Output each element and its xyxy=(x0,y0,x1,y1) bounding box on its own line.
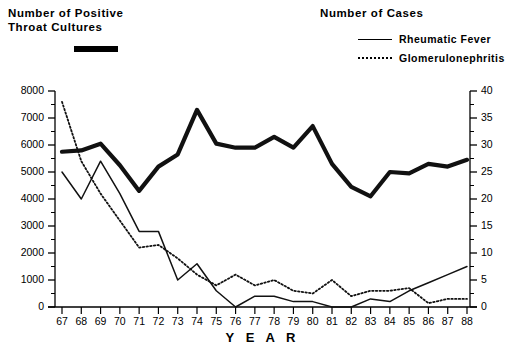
x-axis-title: Y E A R xyxy=(0,330,525,345)
y-axis-left-tick-label: 2000 xyxy=(0,246,44,258)
x-axis-tick-label: 88 xyxy=(455,315,479,327)
tick-marks xyxy=(48,91,477,314)
series-line xyxy=(62,110,467,196)
y-axis-right-tick-label: 20 xyxy=(481,192,493,204)
y-axis-right-tick-label: 30 xyxy=(481,138,493,150)
y-axis-left-tick-label: 3000 xyxy=(0,219,44,231)
series-line xyxy=(62,102,467,303)
y-axis-right-tick-label: 35 xyxy=(481,111,493,123)
y-axis-right-tick-label: 25 xyxy=(481,165,493,177)
y-axis-right-tick-label: 10 xyxy=(481,246,493,258)
y-axis-left-tick-label: 6000 xyxy=(0,138,44,150)
y-axis-left-tick-label: 8000 xyxy=(0,84,44,96)
axis-lines xyxy=(48,91,477,307)
y-axis-left-tick-label: 0 xyxy=(0,300,44,312)
y-axis-right-tick-label: 40 xyxy=(481,84,493,96)
y-axis-left-tick-label: 5000 xyxy=(0,165,44,177)
series-line xyxy=(62,161,467,307)
data-series xyxy=(62,102,467,307)
y-axis-left-tick-label: 7000 xyxy=(0,111,44,123)
y-axis-left-tick-label: 4000 xyxy=(0,192,44,204)
y-axis-right-tick-label: 5 xyxy=(481,273,487,285)
y-axis-right-tick-label: 15 xyxy=(481,219,493,231)
y-axis-left-tick-label: 1000 xyxy=(0,273,44,285)
plot-area xyxy=(0,0,525,358)
y-axis-right-tick-label: 0 xyxy=(481,300,487,312)
chart-figure: Number of Positive Throat Cultures Numbe… xyxy=(0,0,525,358)
